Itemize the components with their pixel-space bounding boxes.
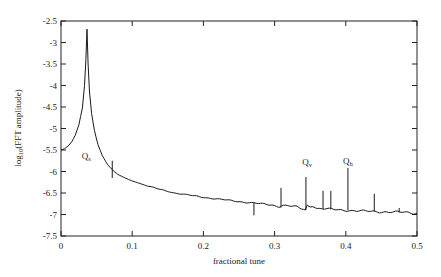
x-tick-label: 0 (59, 241, 64, 251)
y-tick-label: -6 (50, 167, 58, 177)
y-axis-title: log10(FFT amplitude) (13, 89, 24, 167)
y-axis-ticks: -2.5-3-3.5-4-4.5-5-5.5-6-6.5-7-7.5 (43, 16, 417, 241)
y-tick-label: -5.5 (43, 145, 58, 155)
fft-spectrum-chart: 00.10.20.30.40.5 -2.5-3-3.5-4-4.5-5-5.5-… (0, 0, 441, 277)
y-tick-label: -4.5 (43, 102, 58, 112)
peak-label: Qs (82, 151, 92, 162)
x-tick-label: 0.5 (411, 241, 423, 251)
peak-label: Qv (302, 157, 313, 168)
y-tick-label: -7 (50, 210, 58, 220)
x-tick-label: 0.2 (198, 241, 209, 251)
peak-label: Qh (343, 156, 354, 167)
y-tick-label: -7.5 (43, 231, 58, 241)
y-tick-label: -6.5 (43, 188, 58, 198)
y-tick-label: -4 (50, 81, 58, 91)
x-tick-label: 0.4 (340, 241, 352, 251)
y-tick-label: -3 (50, 38, 58, 48)
y-tick-label: -5 (50, 124, 58, 134)
x-tick-label: 0.3 (269, 241, 281, 251)
spectrum-line (61, 29, 417, 214)
y-tick-label: -2.5 (43, 16, 58, 26)
x-tick-label: 0.1 (127, 241, 138, 251)
x-axis-ticks: 00.10.20.30.40.5 (59, 21, 423, 251)
plot-frame (61, 21, 417, 236)
y-tick-label: -3.5 (43, 59, 58, 69)
data-series (61, 29, 417, 215)
peak-annotations: QsQvQh (82, 151, 354, 168)
x-axis-title: fractional tune (213, 256, 265, 266)
